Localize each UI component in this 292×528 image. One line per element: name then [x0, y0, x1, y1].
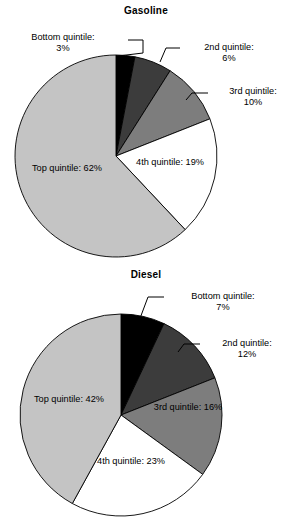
label-4th-quintile-gasoline: 4th quintile: 19%: [128, 157, 212, 168]
leader-line-bottom-gasoline: [118, 40, 143, 56]
label-4th-quintile-diesel-name: 4th quintile:: [97, 456, 144, 466]
label-3rd-quintile-gasoline-pct: 10%: [212, 97, 292, 108]
label-top-quintile-gasoline-name: Top quintile:: [32, 163, 81, 173]
label-bottom-quintile-gasoline-pct: 3%: [8, 43, 118, 54]
label-top-quintile-gasoline-pct: 62%: [84, 163, 102, 173]
label-2nd-quintile-gasoline-pct: 6%: [184, 53, 274, 64]
label-top-quintile-diesel: Top quintile: 42%: [26, 394, 112, 405]
chart-gasoline: Gasoline Bottom quintile: 3% 2nd quintil…: [0, 0, 292, 264]
label-2nd-quintile-diesel-pct: 12%: [204, 349, 290, 360]
label-3rd-quintile-diesel: 3rd quintile: 16%: [146, 402, 230, 413]
label-2nd-quintile-gasoline: 2nd quintile: 6%: [184, 42, 274, 64]
chart-diesel: Diesel Bottom quintile: 7% 2nd quintile:…: [0, 264, 292, 528]
label-top-quintile-diesel-name: Top quintile:: [34, 394, 83, 404]
label-3rd-quintile-gasoline: 3rd quintile: 10%: [212, 86, 292, 108]
label-4th-quintile-diesel: 4th quintile: 23%: [88, 456, 174, 467]
label-4th-quintile-gasoline-name: 4th quintile:: [136, 157, 183, 167]
label-3rd-quintile-gasoline-name: 3rd quintile:: [212, 86, 292, 97]
label-2nd-quintile-gasoline-name: 2nd quintile:: [184, 42, 274, 53]
pie-slices-gasoline: [15, 55, 217, 257]
label-bottom-quintile-diesel-pct: 7%: [168, 302, 278, 313]
label-bottom-quintile-gasoline-name: Bottom quintile:: [8, 32, 118, 43]
label-bottom-quintile-diesel-name: Bottom quintile:: [168, 291, 278, 302]
label-top-quintile-diesel-pct: 42%: [86, 394, 104, 404]
label-3rd-quintile-diesel-name: 3rd quintile:: [154, 402, 202, 412]
label-4th-quintile-diesel-pct: 23%: [147, 456, 165, 466]
label-2nd-quintile-diesel: 2nd quintile: 12%: [204, 338, 290, 360]
label-top-quintile-gasoline: Top quintile: 62%: [24, 163, 110, 174]
label-bottom-quintile-diesel: Bottom quintile: 7%: [168, 291, 278, 313]
label-2nd-quintile-diesel-name: 2nd quintile:: [204, 338, 290, 349]
label-bottom-quintile-gasoline: Bottom quintile: 3%: [8, 32, 118, 54]
label-3rd-quintile-diesel-pct: 16%: [204, 402, 222, 412]
leader-line-second-gasoline: [160, 48, 180, 62]
label-4th-quintile-gasoline-pct: 19%: [186, 157, 204, 167]
